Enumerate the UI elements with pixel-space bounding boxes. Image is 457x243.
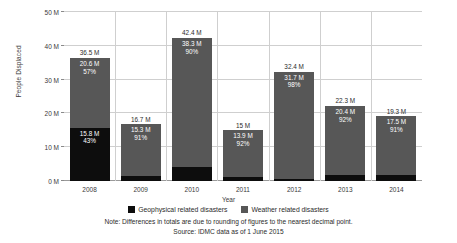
gridline-y-30 [64, 79, 422, 80]
bar-segment-weather[interactable]: 31.7 M98% [274, 72, 314, 179]
legend-label-weather: Weather related disasters [251, 206, 328, 213]
x-tick-label-2014: 2014 [376, 186, 416, 193]
plot-area: 0 M10 M20 M30 M40 M50 M15.8 M43%20.6 M57… [64, 12, 422, 181]
gridline-y-40 [64, 45, 422, 46]
weather-label-block: 38.3 M90% [172, 40, 212, 55]
bar-value-label-weather: 31.7 M [274, 74, 314, 82]
y-tick-mark [61, 45, 64, 46]
weather-label-block: 31.7 M98% [274, 74, 314, 89]
gridline-y-20 [64, 112, 422, 113]
legend-label-geophysical: Geophysical related disasters [138, 206, 227, 213]
bar-segment-weather[interactable]: 38.3 M90% [172, 38, 212, 167]
legend-swatch-weather-icon [241, 206, 248, 213]
y-tick-label: 10 M [45, 144, 59, 151]
bar-value-label-geophysical: 15.8 M [70, 130, 110, 138]
bar-segment-weather[interactable]: 20.4 M92% [325, 106, 365, 175]
x-tick-label-2011: 2011 [223, 186, 263, 193]
chart-note: Note: Differences in totals are due to r… [0, 218, 457, 225]
x-tick-label-2009: 2009 [121, 186, 161, 193]
gridline-x [320, 12, 321, 181]
y-tick-label: 30 M [45, 76, 59, 83]
legend-item-geophysical: Geophysical related disasters [128, 206, 227, 213]
bar-percent-label-weather: 91% [121, 134, 161, 142]
bar-segment-geophysical[interactable]: 4 M10% [172, 167, 212, 181]
bar-segment-geophysical[interactable]: 1.8 M8% [325, 175, 365, 181]
y-tick-mark [61, 180, 64, 181]
weather-label-block: 20.6 M57% [70, 60, 110, 75]
y-tick-mark [61, 79, 64, 80]
gridline-y-50 [64, 11, 422, 12]
x-axis-title: Year [0, 196, 457, 203]
bar-group[interactable]: 1.1 M8%13.9 M92%15 M2011 [223, 130, 263, 181]
bar-value-label-weather: 13.9 M [223, 132, 263, 140]
y-tick-mark [61, 112, 64, 113]
bar-segment-weather[interactable]: 20.6 M57% [70, 58, 110, 128]
y-tick-mark [61, 11, 64, 12]
bar-segment-geophysical[interactable]: 1.5 M9% [121, 176, 161, 181]
x-tick-label-2013: 2013 [325, 186, 365, 193]
y-tick-label: 0 M [48, 178, 59, 185]
x-tick-label-2012: 2012 [274, 186, 314, 193]
bar-total-label: 36.5 M [70, 49, 110, 57]
bar-segment-geophysical[interactable]: 0.7 M2% [274, 179, 314, 181]
bar-segment-geophysical[interactable]: 1.7 M9% [376, 175, 416, 181]
bar-value-label-weather: 17.5 M [376, 118, 416, 126]
x-tick-label-2008: 2008 [70, 186, 110, 193]
bar-group[interactable]: 15.8 M43%20.6 M57%36.5 M2008 [70, 58, 110, 181]
bar-value-label-weather: 20.4 M [325, 108, 365, 116]
y-tick-label: 50 M [45, 9, 59, 16]
chart-legend: Geophysical related disasters Weather re… [0, 206, 457, 213]
bar-total-label: 19.3 M [376, 108, 416, 116]
bar-group[interactable]: 0.7 M2%31.7 M98%32.4 M2012 [274, 72, 314, 182]
bar-percent-label-geophysical: 43% [70, 137, 110, 145]
y-axis-title: People Displaced [15, 22, 22, 122]
chart-source: Source: IDMC data as of 1 June 2015 [0, 228, 457, 235]
bar-total-label: 22.3 M [325, 97, 365, 105]
bar-segment-weather[interactable]: 13.9 M92% [223, 130, 263, 177]
legend-item-weather: Weather related disasters [241, 206, 328, 213]
y-tick-label: 20 M [45, 110, 59, 117]
bar-percent-label-weather: 98% [274, 81, 314, 89]
gridline-x [269, 12, 270, 181]
weather-label-block: 13.9 M92% [223, 132, 263, 147]
gridline-x [115, 12, 116, 181]
bar-group[interactable]: 1.5 M9%15.3 M91%16.7 M2009 [121, 124, 161, 181]
bar-group[interactable]: 1.7 M9%17.5 M91%19.3 M2014 [376, 116, 416, 181]
y-tick-mark [61, 146, 64, 147]
bar-value-label-weather: 38.3 M [172, 40, 212, 48]
bar-group[interactable]: 4 M10%38.3 M90%42.4 M2010 [172, 38, 212, 181]
y-tick-label: 40 M [45, 42, 59, 49]
bar-percent-label-weather: 57% [70, 68, 110, 76]
bar-total-label: 32.4 M [274, 63, 314, 71]
x-tick-label-2010: 2010 [172, 186, 212, 193]
gridline-x [166, 12, 167, 181]
bar-segment-weather[interactable]: 15.3 M91% [121, 124, 161, 176]
weather-label-block: 17.5 M91% [376, 118, 416, 133]
geophysical-label-block: 15.8 M43% [70, 130, 110, 145]
gridline-x [371, 12, 372, 181]
bar-total-label: 16.7 M [121, 116, 161, 124]
weather-label-block: 15.3 M91% [121, 126, 161, 141]
displacement-stacked-bar-chart: People Displaced 0 M10 M20 M30 M40 M50 M… [0, 0, 457, 243]
gridline-x [217, 12, 218, 181]
bar-segment-geophysical[interactable]: 15.8 M43% [70, 128, 110, 181]
bar-value-label-weather: 15.3 M [121, 126, 161, 134]
bar-percent-label-weather: 92% [325, 116, 365, 124]
bar-total-label: 15 M [223, 122, 263, 130]
bar-percent-label-weather: 92% [223, 140, 263, 148]
legend-swatch-geophysical-icon [128, 206, 135, 213]
bar-segment-geophysical[interactable]: 1.1 M8% [223, 177, 263, 181]
bar-group[interactable]: 1.8 M8%20.4 M92%22.3 M2013 [325, 106, 365, 181]
bar-percent-label-weather: 91% [376, 126, 416, 134]
bar-segment-weather[interactable]: 17.5 M91% [376, 116, 416, 175]
bar-value-label-weather: 20.6 M [70, 60, 110, 68]
bar-percent-label-weather: 90% [172, 48, 212, 56]
weather-label-block: 20.4 M92% [325, 108, 365, 123]
bar-total-label: 42.4 M [172, 29, 212, 37]
